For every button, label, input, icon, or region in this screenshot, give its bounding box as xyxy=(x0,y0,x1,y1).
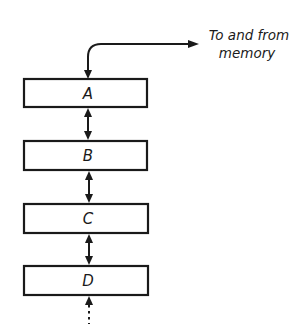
register-d-label: D xyxy=(82,272,94,290)
connector-b-c xyxy=(85,171,93,203)
arrow-up-icon xyxy=(85,234,93,243)
arrow-up-icon xyxy=(84,108,92,117)
arrow-down-icon xyxy=(84,131,92,140)
arrow-up-icon xyxy=(85,296,93,305)
connector-a-b xyxy=(84,108,92,140)
continuation-connector xyxy=(85,296,93,324)
memory-connector xyxy=(84,40,199,79)
arrow-down-icon xyxy=(85,256,93,265)
register-stack-diagram: To and from memory A B C D xyxy=(0,0,305,332)
register-b: B xyxy=(24,141,147,170)
connector-c-d xyxy=(85,234,93,265)
register-a-label: A xyxy=(82,85,93,103)
register-b-label: B xyxy=(83,147,93,165)
arrow-down-icon xyxy=(85,194,93,203)
register-c: C xyxy=(24,204,148,233)
register-a: A xyxy=(24,79,147,107)
arrow-right-icon xyxy=(188,40,199,48)
register-c-label: C xyxy=(83,210,94,228)
memory-connector-line xyxy=(88,44,190,72)
register-d: D xyxy=(24,266,148,295)
arrow-up-icon xyxy=(85,171,93,180)
memory-label: To and from memory xyxy=(209,27,290,61)
arrow-down-icon xyxy=(84,70,92,79)
memory-label-line2: memory xyxy=(219,45,276,61)
memory-label-line1: To and from xyxy=(209,27,290,43)
